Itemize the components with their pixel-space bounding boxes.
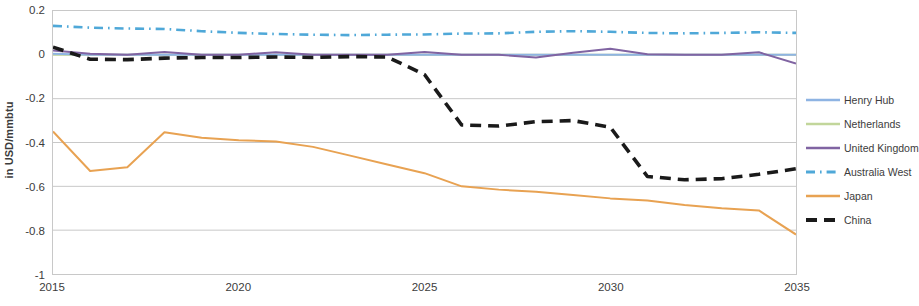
legend-item-australia-west[interactable]: Australia West [806,160,911,184]
x-tick-label: 2025 [412,281,438,293]
series-line-japan [53,132,796,235]
legend-item-united-kingdom[interactable]: United Kingdom [806,136,911,160]
legend-item-japan[interactable]: Japan [806,184,911,208]
y-tick-label: 0 [0,48,50,60]
y-tick-label: -0.4 [0,137,50,149]
x-tick-label: 2035 [784,281,810,293]
y-tick-label: -0.8 [0,225,50,237]
legend-swatch-icon [806,142,840,154]
plot-svg [53,11,796,274]
legend-swatch-icon [806,94,840,106]
y-tick-label: -0.6 [0,181,50,193]
legend-label: Australia West [844,166,912,178]
legend-item-henry-hub[interactable]: Henry Hub [806,88,911,112]
plot-area [52,10,797,275]
legend-swatch-icon [806,118,840,130]
y-tick-label: -1 [0,269,50,281]
legend-swatch-icon [806,190,840,202]
y-axis-tick-labels: 0.20-0.2-0.4-0.6-0.8-1 [0,0,50,306]
x-tick-label: 2015 [39,281,65,293]
series-line-united-kingdom [53,49,796,64]
x-tick-label: 2020 [225,281,251,293]
legend-label: United Kingdom [844,142,919,154]
series-line-china [53,47,796,180]
legend-label: Japan [844,190,873,202]
chart-legend: Henry HubNetherlandsUnited KingdomAustra… [806,88,911,232]
y-tick-label: 0.2 [0,4,50,16]
legend-label: Henry Hub [844,94,894,106]
x-axis-tick-labels: 20152020202520302035 [52,277,797,303]
x-tick-label: 2030 [598,281,624,293]
legend-swatch-icon [806,166,840,178]
legend-label: Netherlands [844,118,901,130]
legend-item-china[interactable]: China [806,208,911,232]
legend-label: China [844,214,871,226]
legend-item-netherlands[interactable]: Netherlands [806,112,911,136]
legend-swatch-icon [806,214,840,226]
y-tick-label: -0.2 [0,92,50,104]
series-line-australia-west [53,26,796,35]
